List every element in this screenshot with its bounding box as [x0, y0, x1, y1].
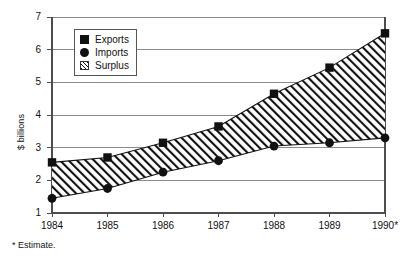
legend-item-imports: Imports [80, 46, 129, 59]
data-marker-imports [159, 168, 168, 177]
data-marker-exports [214, 122, 222, 130]
legend-label-surplus: Surplus [95, 60, 129, 71]
data-marker-exports [159, 139, 167, 147]
data-marker-exports [103, 153, 111, 161]
filled-circle-icon [80, 48, 89, 57]
y-tick-label: 5 [25, 77, 41, 87]
y-tick-label: 7 [25, 12, 41, 22]
x-tick-label: 1984 [27, 221, 77, 231]
data-marker-imports [325, 138, 334, 147]
y-axis-ticks [47, 17, 52, 213]
y-tick-label: 2 [25, 175, 41, 185]
x-tick-label: 1987 [194, 221, 244, 231]
legend-label-exports: Exports [95, 34, 129, 45]
x-tick-label: 1988 [249, 221, 299, 231]
x-axis-ticks [52, 213, 385, 217]
legend-item-exports: Exports [80, 33, 129, 46]
legend-label-imports: Imports [95, 47, 128, 58]
data-marker-imports [270, 142, 279, 151]
data-marker-imports [214, 156, 223, 165]
data-marker-imports [103, 184, 112, 193]
data-marker-exports [381, 29, 389, 37]
chart-figure: $ billions 1234567 198419851986198719881… [0, 0, 410, 264]
data-marker-exports [48, 158, 56, 166]
x-tick-label: 1985 [83, 221, 133, 231]
y-tick-label: 1 [25, 208, 41, 218]
y-tick-label: 3 [25, 143, 41, 153]
hatched-swatch-icon [80, 61, 89, 70]
y-tick-label: 4 [25, 110, 41, 120]
data-marker-imports [381, 133, 390, 142]
data-marker-imports [48, 194, 57, 203]
chart-footnote: * Estimate. [12, 240, 56, 250]
x-tick-label: 1989 [305, 221, 355, 231]
x-tick-label: 1986 [138, 221, 188, 231]
chart-legend: Exports Imports Surplus [74, 29, 137, 76]
x-tick-label: 1990* [360, 221, 410, 231]
data-marker-exports [270, 90, 278, 98]
data-marker-exports [325, 63, 333, 71]
y-tick-label: 6 [25, 45, 41, 55]
filled-square-icon [80, 35, 89, 44]
legend-item-surplus: Surplus [80, 59, 129, 72]
